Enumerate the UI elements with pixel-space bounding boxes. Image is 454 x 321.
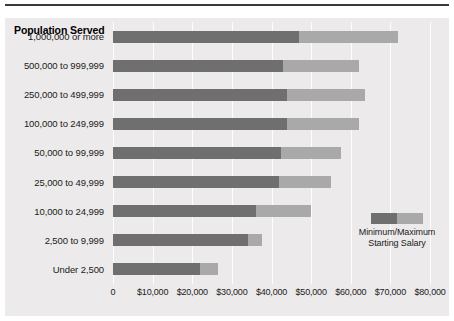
chart-row: 25,000 to 49,999	[0, 168, 454, 197]
category-label: 25,000 to 49,999	[0, 168, 104, 197]
top-divider	[5, 4, 449, 6]
bar-segment-minimum	[113, 205, 256, 217]
salary-range-bar	[113, 118, 359, 130]
legend-swatch-maximum	[397, 213, 423, 224]
legend-swatch	[371, 213, 423, 224]
salary-range-bar	[113, 205, 311, 217]
x-tick-label: $30,000	[216, 287, 247, 297]
bar-segment-maximum	[279, 176, 331, 188]
bar-segment-minimum	[113, 263, 200, 275]
bar-segment-minimum	[113, 60, 283, 72]
bar-segment-minimum	[113, 118, 287, 130]
category-label: Under 2,500	[0, 255, 104, 284]
x-tick-label: $20,000	[177, 287, 208, 297]
salary-range-bar	[113, 234, 262, 246]
chart-row: 100,000 to 249,999	[0, 109, 454, 138]
bar-segment-minimum	[113, 176, 279, 188]
category-label: 1,000,000 or more	[0, 22, 104, 51]
legend-label: Minimum/Maximum Starting Salary	[347, 227, 447, 249]
salary-range-chart: Population Served 1,000,000 or more500,0…	[0, 0, 454, 321]
bar-segment-maximum	[256, 205, 311, 217]
bar-segment-minimum	[113, 234, 248, 246]
bar-segment-maximum	[248, 234, 262, 246]
chart-legend: Minimum/Maximum Starting Salary	[347, 213, 447, 249]
x-tick-label: $10,000	[137, 287, 168, 297]
x-tick-label: $50,000	[296, 287, 327, 297]
category-label: 500,000 to 999,999	[0, 51, 104, 80]
chart-row: 250,000 to 499,999	[0, 80, 454, 109]
bar-segment-maximum	[299, 31, 398, 43]
salary-range-bar	[113, 263, 218, 275]
salary-range-bar	[113, 31, 398, 43]
bar-segment-minimum	[113, 31, 299, 43]
bar-segment-maximum	[281, 147, 340, 159]
category-label: 50,000 to 99,999	[0, 138, 104, 167]
salary-range-bar	[113, 147, 341, 159]
bar-segment-maximum	[283, 60, 358, 72]
category-label: 10,000 to 24,999	[0, 197, 104, 226]
category-label: 250,000 to 499,999	[0, 80, 104, 109]
x-axis-ticks: 0$10,000$20,000$30,000$40,000$50,000$60,…	[0, 287, 454, 303]
x-tick-label: $60,000	[335, 287, 366, 297]
bar-segment-maximum	[287, 118, 358, 130]
legend-swatch-minimum	[371, 213, 397, 224]
bar-segment-maximum	[200, 263, 218, 275]
legend-label-line2: Starting Salary	[347, 238, 447, 249]
category-label: 2,500 to 9,999	[0, 226, 104, 255]
chart-row: 500,000 to 999,999	[0, 51, 454, 80]
chart-row: 50,000 to 99,999	[0, 138, 454, 167]
bar-segment-maximum	[287, 89, 364, 101]
x-tick-label: $70,000	[375, 287, 406, 297]
bar-segment-minimum	[113, 147, 281, 159]
salary-range-bar	[113, 176, 331, 188]
salary-range-bar	[113, 60, 359, 72]
chart-row: Under 2,500	[0, 255, 454, 284]
category-label: 100,000 to 249,999	[0, 109, 104, 138]
chart-row: 1,000,000 or more	[0, 22, 454, 51]
salary-range-bar	[113, 89, 365, 101]
x-tick-label: 0	[111, 287, 116, 297]
bar-segment-minimum	[113, 89, 287, 101]
x-tick-label: $40,000	[256, 287, 287, 297]
x-tick-label: $80,000	[414, 287, 445, 297]
legend-label-line1: Minimum/Maximum	[347, 227, 447, 238]
